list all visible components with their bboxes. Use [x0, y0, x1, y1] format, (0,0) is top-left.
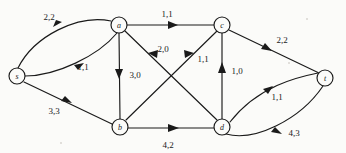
edge-label-t-d: 1,1 [271, 92, 282, 102]
edge-d-c-arrowhead [218, 62, 226, 73]
edge-d-c [218, 33, 226, 119]
node-c-label: c [220, 21, 224, 30]
edge-s-b-path [24, 82, 112, 124]
edge-a-s [25, 33, 117, 76]
edge-label-a-b: 3,0 [129, 70, 141, 80]
graph-canvas: 2,2 1,1 3,3 1,1 3,0 2,0 1,1 1,0 4,2 2,2 … [0, 0, 346, 153]
edge-s-a-path [18, 20, 111, 68]
edge-s-b [24, 82, 112, 124]
edge-a-b [115, 33, 123, 119]
node-t: t [317, 70, 333, 86]
edge-label-s-b: 3,3 [48, 106, 60, 116]
edge-b-d-arrowhead [168, 124, 179, 132]
edge-label-b-d: 4,2 [162, 140, 173, 150]
edge-s-b-arrowhead [61, 96, 72, 103]
edge-a-b-arrowhead [115, 69, 123, 79]
node-s: s [9, 68, 25, 84]
node-c: c [214, 17, 230, 33]
edge-label-d-c: 1,0 [231, 66, 243, 76]
node-d: d [214, 119, 230, 135]
flow-network-figure: 2,2 1,1 3,3 1,1 3,0 2,0 1,1 1,0 4,2 2,2 … [0, 0, 346, 153]
edge-c-t-arrowhead [261, 43, 272, 51]
node-b-label: b [118, 123, 122, 132]
edge-a-c-arrowhead [168, 21, 178, 29]
edge-b-d [128, 124, 214, 132]
edge-label-b-c: 1,1 [197, 54, 208, 64]
edge-label-c-t: 2,2 [276, 35, 287, 45]
edge-label-a-c: 1,1 [161, 9, 172, 19]
node-a: a [111, 17, 127, 33]
edge-s-a [18, 20, 111, 68]
node-b: b [112, 119, 128, 135]
edge-label-d-t: 4,3 [288, 128, 300, 138]
node-a-label: a [117, 21, 121, 30]
edge-label-a-s: 1,1 [77, 62, 88, 72]
node-s-label: s [15, 72, 18, 81]
edge-a-c [127, 21, 214, 29]
edge-a-s-path [25, 33, 117, 76]
edge-label-s-a: 2,2 [43, 12, 54, 22]
edge-b-c-arrowhead [184, 50, 194, 58]
edge-label-d-a: 2,0 [157, 44, 169, 54]
